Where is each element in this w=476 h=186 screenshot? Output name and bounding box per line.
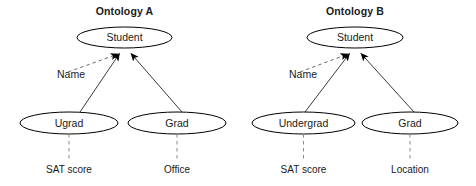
panel-ontology-a: Ontology A Student Name Ugrad Grad: [20, 5, 226, 175]
node-label-grad-b: Grad: [398, 117, 422, 129]
panel-ontology-b: Ontology B Student Name Undergrad Grad: [252, 5, 458, 175]
node-label-undergrad-b: Undergrad: [279, 117, 329, 129]
node-label-student-a: Student: [106, 31, 142, 43]
attribute-label-sat-score-b: SAT score: [281, 164, 327, 175]
property-label-name-b: Name: [289, 68, 317, 80]
node-student-b[interactable]: Student: [307, 27, 403, 48]
isa-edge-ugrad-student-a: [80, 54, 120, 113]
diagram-canvas: Ontology A Student Name Ugrad Grad: [0, 0, 476, 186]
attribute-label-location-b: Location: [391, 164, 429, 175]
node-label-ugrad-a: Ugrad: [55, 117, 84, 129]
node-grad-a[interactable]: Grad: [128, 112, 226, 134]
isa-edge-grad-student-b: [361, 54, 414, 113]
node-label-student-b: Student: [337, 31, 373, 43]
panel-title-ontology-b: Ontology B: [326, 5, 384, 17]
property-label-name-a: Name: [57, 68, 85, 80]
attribute-label-sat-score-a: SAT score: [46, 164, 92, 175]
attribute-label-office-a: Office: [164, 164, 190, 175]
node-student-a[interactable]: Student: [77, 27, 172, 48]
node-grad-b[interactable]: Grad: [362, 112, 458, 134]
panel-title-ontology-a: Ontology A: [96, 5, 154, 17]
node-undergrad-b[interactable]: Undergrad: [252, 112, 355, 134]
node-ugrad-a[interactable]: Ugrad: [20, 112, 118, 134]
node-label-grad-a: Grad: [165, 117, 189, 129]
ontology-diagram: Ontology A Student Name Ugrad Grad: [0, 0, 476, 186]
isa-edge-grad-student-a: [131, 54, 182, 113]
